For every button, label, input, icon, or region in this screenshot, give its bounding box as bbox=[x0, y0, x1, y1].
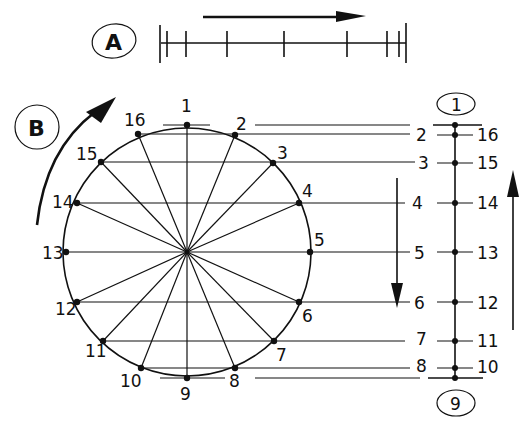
point-label-1: 1 bbox=[181, 96, 192, 116]
scale-right-label-11: 11 bbox=[477, 331, 499, 351]
down-arrow-icon bbox=[391, 178, 403, 308]
point-label-7: 7 bbox=[276, 345, 287, 365]
scale-left-label-7: 7 bbox=[416, 329, 427, 349]
scale-right-label-15: 15 bbox=[477, 153, 499, 173]
point-label-6: 6 bbox=[302, 306, 313, 326]
scale-right-label-13: 13 bbox=[477, 243, 499, 263]
point-label-5: 5 bbox=[314, 230, 325, 250]
point-label-11: 11 bbox=[85, 341, 107, 361]
point-label-9: 9 bbox=[180, 384, 191, 404]
projection-lines bbox=[66, 125, 420, 378]
scale-left-label-6: 6 bbox=[414, 293, 425, 313]
scale-left-label-4: 4 bbox=[412, 193, 423, 213]
section-b: B bbox=[15, 96, 420, 404]
scale-right-label-10: 10 bbox=[477, 357, 499, 377]
scale-left-label-5: 5 bbox=[414, 243, 425, 263]
section-b-label: B bbox=[28, 116, 45, 141]
scale-right-label-16: 16 bbox=[477, 125, 499, 145]
projected-scale: 1 9 2 3 4 5 6 7 8 16 15 14 13 12 11 10 bbox=[391, 93, 519, 416]
point-label-2: 2 bbox=[236, 114, 247, 134]
point-label-8: 8 bbox=[229, 371, 240, 391]
scale-left-label-2: 2 bbox=[416, 125, 427, 145]
up-arrow-icon bbox=[507, 170, 519, 330]
section-a-label: A bbox=[105, 30, 122, 55]
point-label-16: 16 bbox=[124, 110, 146, 130]
point-label-14: 14 bbox=[52, 192, 74, 212]
bottom-label: 9 bbox=[450, 394, 461, 414]
point-label-13: 13 bbox=[42, 243, 64, 263]
linear-scale bbox=[160, 23, 406, 63]
right-arrow-icon bbox=[203, 11, 366, 22]
top-label: 1 bbox=[451, 95, 462, 115]
scale-left-label-3: 3 bbox=[418, 153, 429, 173]
scale-right-label-12: 12 bbox=[477, 293, 499, 313]
point-label-12: 12 bbox=[55, 299, 77, 319]
point-label-3: 3 bbox=[277, 143, 288, 163]
section-a: A bbox=[89, 11, 406, 63]
diagram-canvas: A B bbox=[0, 0, 529, 427]
scale-right-label-14: 14 bbox=[477, 193, 499, 213]
scale-left-label-8: 8 bbox=[416, 356, 427, 376]
point-label-4: 4 bbox=[302, 181, 313, 201]
point-label-15: 15 bbox=[76, 144, 98, 164]
point-label-10: 10 bbox=[120, 371, 142, 391]
